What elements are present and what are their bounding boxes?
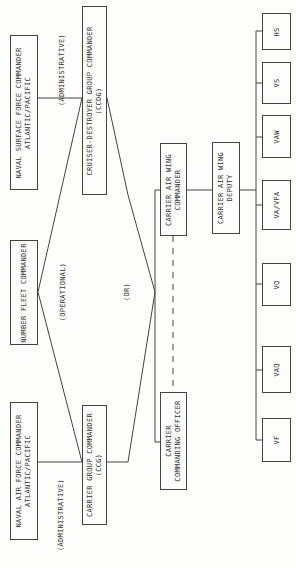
- squadron-vaq: VAQ: [262, 346, 291, 393]
- squadron-label: VAW: [272, 130, 281, 144]
- or-note: (OR): [123, 283, 131, 301]
- squadron-vs: VS: [262, 62, 291, 104]
- squadron-vq: VQ: [262, 263, 291, 306]
- naval-surface-force-box: NAVAL SURFACE FORCE COMMANDER ATLANTIC/P…: [10, 35, 38, 190]
- squadron-vaw: VAW: [262, 115, 291, 158]
- box-label: CRUISER-DESTROYER GROUP COMMANDER (CCDG): [86, 26, 104, 175]
- squadron-label: VQ: [272, 280, 281, 289]
- connector-lines: [0, 0, 297, 568]
- squadron-label: VAQ: [272, 363, 281, 377]
- squadron-label: VF: [272, 435, 281, 444]
- squadron-label: VS: [272, 78, 281, 87]
- squadron-vf: VF: [262, 418, 291, 462]
- squadron-label: HS: [272, 27, 281, 36]
- box-label: CARRIER COMMANDING OFFICER: [165, 400, 183, 481]
- squadron-label: VA/VFA: [272, 191, 281, 218]
- air-wing-commander-box: CARRIER AIR WING COMMANDER: [160, 143, 187, 236]
- box-label: NUMBER FLEET COMMANDER: [20, 243, 29, 342]
- number-fleet-box: NUMBER FLEET COMMANDER: [10, 240, 38, 345]
- squadron-va-vfa: VA/VFA: [262, 180, 291, 230]
- cruiser-destroyer-box: CRUISER-DESTROYER GROUP COMMANDER (CCDG): [82, 6, 107, 195]
- box-label: CARRIER AIR WING COMMANDER: [165, 153, 183, 225]
- box-label: NAVAL AIR FORCE COMMANDER ATLANTIC/PACIF…: [15, 415, 33, 528]
- naval-air-force-box: NAVAL AIR FORCE COMMANDER ATLANTIC/PACIF…: [10, 402, 38, 540]
- org-chart: NAVAL SURFACE FORCE COMMANDER ATLANTIC/P…: [0, 0, 297, 568]
- administrative-note-bottom: (ADMINISTRATIVE): [57, 479, 65, 551]
- box-label: CARRIER AIR WING DEPUTY: [217, 152, 235, 224]
- box-label: NAVAL SURFACE FORCE COMMANDER ATLANTIC/P…: [15, 47, 33, 178]
- air-wing-deputy-box: CARRIER AIR WING DEPUTY: [212, 142, 240, 234]
- carrier-co-box: CARRIER COMMANDING OFFICER: [160, 392, 187, 490]
- squadron-hs: HS: [262, 13, 291, 50]
- operational-note: (OPERATIONAL): [59, 263, 67, 322]
- administrative-note-top: (ADMINISTRATIVE): [58, 34, 66, 106]
- box-label: CARRIER GROUP COMMANDER (CCG): [86, 413, 104, 517]
- carrier-group-box: CARRIER GROUP COMMANDER (CCG): [82, 405, 107, 525]
